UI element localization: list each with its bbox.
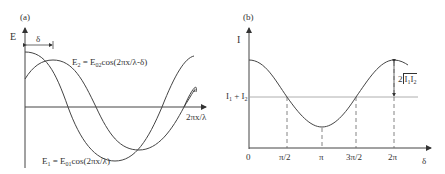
panel-a-axes [25, 28, 206, 168]
i1-plus-i2-label: I1 + I2 [226, 92, 248, 102]
x-axis-label-a: 2πx/λ [186, 113, 206, 122]
delta-label: δ [36, 35, 40, 44]
e2-curve-end [184, 90, 195, 107]
e1-equation: E1 = E01cos(2πx/λ) [42, 157, 110, 167]
tick-pi-half: π/2 [279, 153, 291, 162]
panel-b-axes [249, 28, 431, 149]
intensity-curve [249, 60, 408, 127]
x-axis-label-b: δ [422, 157, 426, 166]
amplitude-label: 2I1I2 [398, 75, 417, 85]
i-axis-label: I [237, 35, 240, 45]
tick-3pi-half: 3π/2 [346, 153, 362, 162]
e-axis-label: E [10, 32, 16, 42]
e2-curve [25, 60, 196, 150]
e2-equation: E2 = E02cos(2πx/λ-δ) [72, 58, 147, 68]
tick-2pi: 2π [388, 153, 397, 162]
tick-0: 0 [246, 153, 251, 162]
diagram-canvas [0, 0, 445, 174]
tick-pi: π [319, 153, 324, 162]
panel-b-label: (b) [243, 13, 254, 22]
tick-drop-lines [287, 62, 394, 148]
panel-a-label: (a) [20, 13, 30, 22]
